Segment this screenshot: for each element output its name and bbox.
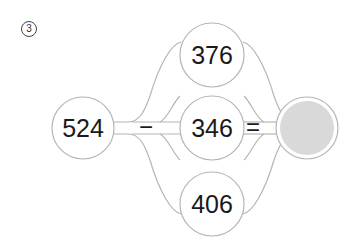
subtraction-diagram: 3 524 − 376 346 406 = [0,0,361,240]
option-bottom-406[interactable]: 406 [180,189,244,219]
minuend-value: 524 [51,113,115,143]
answer-circle[interactable] [275,113,339,143]
minus-sign: − [136,115,156,139]
equals-sign: = [243,115,263,139]
option-middle-346[interactable]: 346 [180,113,244,143]
option-top-376[interactable]: 376 [180,40,244,70]
problem-number-badge: 3 [21,21,37,37]
